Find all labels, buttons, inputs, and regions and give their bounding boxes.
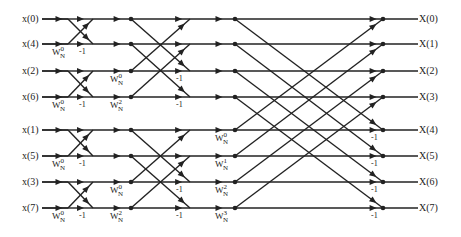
- node-dot: [233, 17, 238, 22]
- arrow-icon: [370, 16, 377, 22]
- arrow-icon: [370, 41, 377, 47]
- twiddle-factor-label: W2N: [110, 98, 123, 113]
- minus-one-label: -1: [371, 133, 378, 142]
- node-dot: [129, 180, 134, 185]
- node-dot: [381, 180, 386, 185]
- arrow-icon: [175, 127, 182, 133]
- twiddle-factor-label: W0N: [215, 131, 228, 146]
- node-dot: [233, 69, 238, 74]
- twiddle-factor-label: W0N: [110, 183, 123, 198]
- twiddle-factor-label: W2N: [215, 183, 228, 198]
- input-label: x(0): [22, 13, 39, 25]
- output-label: X(5): [419, 150, 438, 162]
- output-label: X(2): [419, 65, 438, 77]
- minus-one-label: -1: [371, 185, 378, 194]
- arrow-icon: [370, 94, 377, 100]
- arrow-icon: [77, 179, 84, 185]
- arrow-icon: [175, 153, 182, 159]
- twiddle-factor-label: W0N: [110, 72, 123, 87]
- arrow-icon: [114, 16, 121, 22]
- node-dot: [129, 154, 134, 159]
- arrow-icon: [56, 68, 63, 74]
- twiddle-factor-label: W1N: [215, 157, 228, 172]
- fft-butterfly-diagram: x(0)x(4)x(2)x(6)x(1)x(5)x(3)x(7)X(0)X(1)…: [0, 0, 461, 237]
- arrow-icon: [175, 16, 182, 22]
- minus-one-label: -1: [79, 47, 86, 56]
- node-dot: [381, 128, 386, 133]
- output-label: X(0): [419, 13, 438, 25]
- twiddle-factor-label: W3N: [215, 209, 228, 224]
- output-label: X(3): [419, 91, 438, 103]
- arrow-icon: [77, 68, 84, 74]
- minus-one-label: -1: [176, 100, 183, 109]
- node-dot: [381, 206, 386, 211]
- twiddle-factor-label: W0N: [52, 209, 65, 224]
- arrow-icon: [56, 179, 63, 185]
- minus-one-label: -1: [79, 211, 86, 220]
- input-label: x(6): [22, 91, 39, 103]
- node-dot: [233, 42, 238, 47]
- twiddle-factor-label: W2N: [110, 209, 123, 224]
- arrow-icon: [370, 68, 377, 74]
- arrow-icon: [216, 41, 223, 47]
- twiddle-factor-label: W0N: [52, 45, 65, 60]
- node-dot: [233, 128, 238, 133]
- node-dot: [233, 95, 238, 100]
- arrow-icon: [77, 16, 84, 22]
- input-label: x(1): [22, 124, 39, 136]
- node-dot: [381, 17, 386, 22]
- arrow-icon: [56, 16, 63, 22]
- arrow-icon: [77, 127, 84, 133]
- node-dot: [129, 128, 134, 133]
- arrow-icon: [114, 127, 121, 133]
- node-dot: [381, 154, 386, 159]
- minus-one-label: -1: [79, 100, 86, 109]
- node-dot: [233, 180, 238, 185]
- node-dot: [233, 206, 238, 211]
- node-dot: [381, 69, 386, 74]
- minus-one-label: -1: [176, 185, 183, 194]
- arrow-icon: [56, 127, 63, 133]
- output-label: X(4): [419, 124, 438, 136]
- node-dot: [129, 42, 134, 47]
- minus-one-label: -1: [371, 159, 378, 168]
- arrow-icon: [114, 41, 121, 47]
- node-dot: [129, 69, 134, 74]
- node-dot: [233, 154, 238, 159]
- input-label: x(5): [22, 150, 39, 162]
- output-label: X(7): [419, 202, 438, 214]
- twiddle-factor-label: W0N: [52, 157, 65, 172]
- output-label: X(1): [419, 38, 438, 50]
- node-dot: [381, 95, 386, 100]
- input-label: x(4): [22, 38, 39, 50]
- arrow-icon: [216, 94, 223, 100]
- input-label: x(7): [22, 202, 39, 214]
- minus-one-label: -1: [176, 211, 183, 220]
- arrow-icon: [175, 41, 182, 47]
- minus-one-label: -1: [176, 74, 183, 83]
- node-dot: [381, 42, 386, 47]
- node-dot: [129, 95, 134, 100]
- minus-one-label: -1: [371, 211, 378, 220]
- signal-lines: [42, 16, 418, 211]
- arrow-icon: [216, 68, 223, 74]
- input-label: x(2): [22, 65, 39, 77]
- input-label: x(3): [22, 176, 39, 188]
- output-label: X(6): [419, 176, 438, 188]
- arrow-icon: [216, 16, 223, 22]
- minus-one-label: -1: [79, 159, 86, 168]
- arrow-icon: [114, 153, 121, 159]
- node-dot: [129, 17, 134, 22]
- node-dot: [129, 206, 134, 211]
- twiddle-factor-label: W0N: [52, 98, 65, 113]
